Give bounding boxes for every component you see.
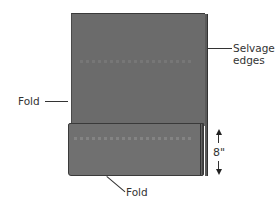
folded-flap bbox=[68, 123, 204, 176]
arrow-up-icon bbox=[216, 129, 222, 135]
measure-line-bottom bbox=[218, 161, 219, 169]
selvage-leader-line bbox=[207, 48, 232, 49]
fold-left-leader-line bbox=[45, 101, 68, 102]
fabric-texture-line bbox=[80, 60, 192, 63]
fold-bottom-label: Fold bbox=[126, 186, 148, 198]
selvage-edge-strip bbox=[205, 14, 208, 176]
flap-edge bbox=[200, 124, 203, 175]
fold-bottom-leader-line bbox=[106, 176, 125, 192]
selvage-label-line1: Selvage bbox=[233, 42, 275, 54]
selvage-label-line2: edges bbox=[233, 54, 275, 66]
measurement-label: 8" bbox=[213, 147, 225, 159]
selvage-label: Selvage edges bbox=[233, 42, 275, 66]
arrow-down-icon bbox=[216, 169, 222, 175]
measure-line-top bbox=[218, 135, 219, 143]
fabric-main-panel bbox=[71, 13, 205, 126]
fold-left-label: Fold bbox=[18, 95, 40, 107]
flap-texture-line bbox=[74, 137, 194, 140]
